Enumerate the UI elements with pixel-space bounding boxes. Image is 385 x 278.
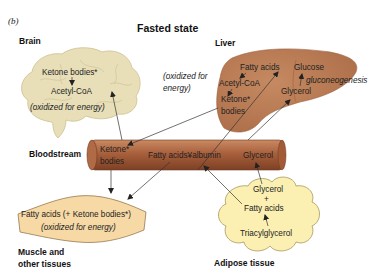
arrow-liver-ketone-to-blood — [128, 108, 218, 145]
liver-oxidized-2: energy) — [163, 84, 191, 93]
blood-ketone-2: bodies — [100, 157, 124, 166]
liver-fatty-acids: Fatty acids — [240, 63, 280, 72]
adipose-triacylglycerol: Triacylglycerol — [240, 229, 292, 238]
fasted-state-diagram: (b) Fasted state Brain Ketone bodies* Ac… — [0, 0, 385, 278]
blood-ketone-1: Ketone* — [100, 145, 130, 154]
adipose-plus: + — [264, 195, 269, 204]
muscle-shape — [18, 196, 146, 243]
panel-label: (b) — [8, 16, 19, 26]
brain-ketone-bodies: Ketone bodies* — [42, 68, 98, 77]
liver-acetyl-coa: Acetyl-CoA — [219, 79, 260, 88]
liver-ketone-2: bodies — [221, 107, 245, 116]
muscle-label-1: Muscle and — [18, 247, 64, 257]
liver-oxidized-1: (oxidized for — [163, 72, 208, 81]
liver-gluconeogenesis: gluconeogenesis — [306, 76, 367, 85]
muscle-label-2: other tissues — [18, 259, 71, 269]
liver-glycerol: Glycerol — [281, 87, 311, 96]
brain-oxidized: (oxidized for energy) — [30, 103, 105, 112]
muscle-oxidized: (oxidized for energy) — [41, 223, 116, 232]
adipose-glycerol: Glycerol — [253, 185, 283, 194]
liver-glucose: Glucose — [294, 63, 324, 72]
figure-title: Fasted state — [137, 22, 198, 34]
blood-glycerol: Glycerol — [243, 151, 273, 160]
bloodstream-label: Bloodstream — [29, 149, 81, 159]
adipose-fatty-acids: Fatty acids — [244, 204, 284, 213]
liver-ketone-1: Ketone* — [221, 95, 251, 104]
muscle-fatty-acids: Fatty acids (+ Ketone bodies*) — [21, 210, 131, 219]
brain-acetyl-coa: Acetyl-CoA — [51, 87, 92, 96]
adipose-label: Adipose tissue — [214, 258, 275, 268]
brain-label: Brain — [19, 36, 41, 46]
liver-label: Liver — [215, 38, 236, 48]
arrow-adipose-fatty-to-blood — [204, 166, 242, 204]
